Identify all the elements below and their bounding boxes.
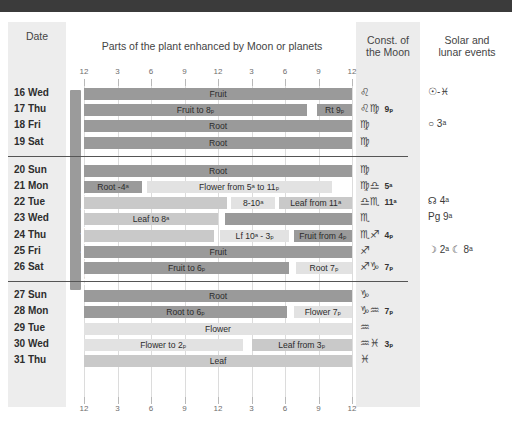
row-bar-track: Fruit	[84, 88, 352, 100]
calendar-row: 24 ThuLf 10ᵃ - 3ₚFruit from 4ₚ♏♐ 4ₚ	[0, 228, 512, 244]
calendar-row: 16 WedFruit♌☉-♓	[0, 86, 512, 102]
row-bar-track: Leaf	[84, 355, 352, 367]
constellation-symbol: ♍♎	[360, 179, 380, 191]
axis-tick-label: 3	[115, 404, 119, 413]
axis-tick-label: 6	[149, 404, 153, 413]
constellation-symbol: ♒♓	[360, 337, 380, 349]
row-date-label: 28 Mon	[14, 305, 48, 316]
axis-tick-mark	[352, 397, 353, 404]
header-parts-of-plant: Parts of the plant enhanced by Moon or p…	[70, 40, 354, 52]
axis-tick-mark	[285, 79, 286, 86]
calendar-page: Date Parts of the plant enhanced by Moon…	[0, 12, 512, 425]
time-axis-top: 123691236912	[84, 67, 352, 81]
axis-tick-label: 3	[115, 67, 119, 76]
row-bar-track: 8-10ᵃLeaf from 11ᵃ	[84, 197, 352, 209]
row-bar-track: Root	[84, 165, 352, 177]
header-constellation-line1: Const. of	[356, 34, 420, 46]
plant-part-bar: Fruit from 4ₚ	[294, 230, 352, 242]
constellation-change-time: 7ₚ	[380, 306, 394, 316]
axis-tick-mark	[185, 397, 186, 404]
constellation-symbol: ♌	[360, 86, 370, 98]
plant-part-bar: Leaf from 3ₚ	[252, 339, 353, 351]
plant-part-bar: Fruit to 8ₚ	[84, 104, 307, 116]
constellation-change-time: 5ᵃ	[380, 181, 393, 191]
constellation-cell: ♍♎ 5ᵃ	[360, 179, 392, 192]
axis-tick-mark	[84, 397, 85, 404]
solar-lunar-event: ☊ 4ᵃ	[428, 195, 449, 206]
plant-part-bar: Flower to 2ₚ	[84, 339, 243, 351]
axis-tick-label: 3	[249, 67, 253, 76]
row-date-label: 17 Thu	[14, 103, 46, 114]
row-bar-track: Root -4ᵃFlower from 5ᵃ to 11ₚ	[84, 181, 352, 193]
axis-tick-mark	[218, 397, 219, 404]
constellation-symbol: ♐♑	[360, 260, 380, 272]
axis-tick-label: 9	[182, 404, 186, 413]
constellation-symbol: ♑	[360, 288, 370, 300]
plant-part-bar: Root	[84, 120, 352, 132]
section-separator-1	[8, 156, 408, 157]
constellation-cell: ♏♐ 4ₚ	[360, 228, 393, 241]
axis-tick-label: 9	[316, 67, 320, 76]
header-events-line2: lunar events	[424, 46, 510, 58]
constellation-symbol: ♌♍	[360, 102, 380, 114]
row-date-label: 19 Sat	[14, 136, 43, 147]
constellation-change-time: 3ₚ	[380, 339, 394, 349]
calendar-row: 27 SunRoot♑	[0, 288, 512, 304]
constellation-cell: ♐	[360, 244, 370, 257]
constellation-change-time: 7ₚ	[380, 262, 394, 272]
row-date-label: 23 Wed	[14, 212, 49, 223]
plant-part-bar: Fruit to 6ₚ	[84, 262, 289, 274]
constellation-change-time: 4ₚ	[380, 230, 394, 240]
axis-tick-label: 3	[249, 404, 253, 413]
plant-part-bar: Lf 10ᵃ - 3ₚ	[220, 230, 289, 242]
axis-tick-mark	[252, 79, 253, 86]
constellation-symbol: ♏	[360, 211, 370, 223]
plant-part-bar: Root to 6ₚ	[84, 306, 287, 318]
row-bar-track: Leaf to 8ᵃ	[84, 213, 352, 225]
plant-part-bar: Flower from 5ᵃ to 11ₚ	[147, 181, 332, 193]
axis-tick-mark	[319, 397, 320, 404]
plant-part-bar	[84, 197, 227, 209]
calendar-row: 21 MonRoot -4ᵃFlower from 5ᵃ to 11ₚ♍♎ 5ᵃ	[0, 179, 512, 195]
constellation-cell: ♑	[360, 288, 370, 301]
row-bar-track: Root to 6ₚFlower 7ₚ	[84, 306, 352, 318]
plant-part-bar: Root	[84, 290, 352, 302]
constellation-symbol: ♍	[360, 163, 370, 175]
axis-tick-mark	[151, 79, 152, 86]
axis-tick-mark	[185, 79, 186, 86]
constellation-cell: ♐♑ 7ₚ	[360, 260, 393, 273]
calendar-row: 31 ThuLeaf♓	[0, 353, 512, 369]
plant-part-bar: Flower	[84, 323, 352, 335]
solar-lunar-event: Pg 9ᵃ	[428, 211, 452, 222]
constellation-symbol: ♍	[360, 118, 370, 130]
row-date-label: 26 Sat	[14, 261, 43, 272]
row-bar-track: Root	[84, 120, 352, 132]
row-date-label: 20 Sun	[14, 164, 47, 175]
calendar-row: 19 SatRoot♍	[0, 135, 512, 151]
axis-tick-mark	[252, 397, 253, 404]
row-bar-track: Root	[84, 137, 352, 149]
header-date: Date	[8, 30, 66, 42]
plant-part-bar: Leaf	[84, 355, 352, 367]
constellation-cell: ♑♒ 7ₚ	[360, 304, 393, 317]
row-bar-track: Flower	[84, 323, 352, 335]
solar-lunar-event: ☽ 2ᵃ ☾ 8ᵃ	[428, 244, 473, 255]
header-events-line1: Solar and	[424, 34, 510, 46]
row-bar-track: Flower to 2ₚLeaf from 3ₚ	[84, 339, 352, 351]
constellation-symbol: ♒	[360, 321, 370, 333]
constellation-change-time: 9ₚ	[380, 104, 394, 114]
axis-tick-label: 12	[214, 404, 223, 413]
row-date-label: 18 Fri	[14, 119, 41, 130]
plant-part-bar	[225, 213, 352, 225]
constellation-cell: ♎♏ 11ᵃ	[360, 195, 397, 208]
axis-tick-mark	[118, 79, 119, 86]
calendar-row: 30 WedFlower to 2ₚLeaf from 3ₚ♒♓ 3ₚ	[0, 337, 512, 353]
header-solar-lunar-events: Solar and lunar events	[424, 34, 510, 58]
solar-lunar-event: ○ 3ᵃ	[428, 118, 446, 129]
constellation-change-time: 11ᵃ	[380, 197, 397, 207]
plant-part-bar: Root	[84, 137, 352, 149]
row-date-label: 31 Thu	[14, 354, 46, 365]
time-axis-bottom: 123691236912	[84, 404, 352, 418]
row-date-label: 22 Tue	[14, 196, 45, 207]
constellation-symbol: ♎♏	[360, 195, 380, 207]
